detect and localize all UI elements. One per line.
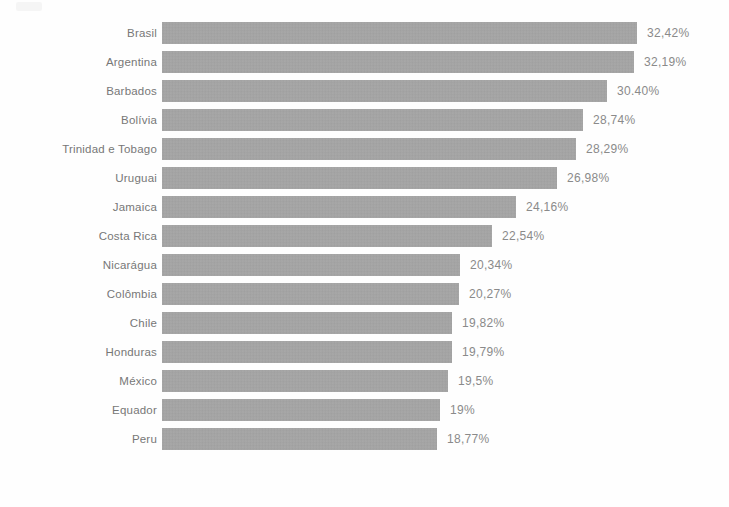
- bar-row: Colômbia20,27%: [0, 283, 729, 312]
- bar-track: 22,54%: [162, 225, 729, 247]
- category-label: Argentina: [106, 51, 157, 73]
- bar-row: Peru18,77%: [0, 428, 729, 457]
- bar: [162, 196, 516, 218]
- bar-value-label: 32,19%: [644, 51, 687, 73]
- bar-chart: Brasil32,42%Argentina32,19%Barbados30.40…: [0, 0, 729, 507]
- bar: [162, 138, 576, 160]
- bar-track: 28,74%: [162, 109, 729, 131]
- bar-row: Barbados30.40%: [0, 80, 729, 109]
- bar-row: México19,5%: [0, 370, 729, 399]
- bar-track: 26,98%: [162, 167, 729, 189]
- bar-row: Argentina32,19%: [0, 51, 729, 80]
- bar: [162, 225, 492, 247]
- bar-value-label: 19,79%: [462, 341, 505, 363]
- bar: [162, 109, 583, 131]
- category-label: Trinidad e Tobago: [62, 138, 157, 160]
- category-label: Honduras: [106, 341, 157, 363]
- bar-value-label: 30.40%: [617, 80, 660, 102]
- category-label: Colômbia: [107, 283, 157, 305]
- category-label: Brasil: [127, 22, 157, 44]
- bar-track: 30.40%: [162, 80, 729, 102]
- category-label: Jamaica: [113, 196, 157, 218]
- bar-row: Trinidad e Tobago28,29%: [0, 138, 729, 167]
- bar-row: Brasil32,42%: [0, 22, 729, 51]
- bar: [162, 341, 452, 363]
- bar: [162, 22, 637, 44]
- category-label: Barbados: [106, 80, 157, 102]
- bar: [162, 80, 607, 102]
- bar-value-label: 20,34%: [470, 254, 513, 276]
- bar: [162, 370, 448, 392]
- bar: [162, 399, 440, 421]
- category-label: Equador: [112, 399, 157, 421]
- category-label: México: [119, 370, 157, 392]
- bar-row: Costa Rica22,54%: [0, 225, 729, 254]
- bar-row: Nicarágua20,34%: [0, 254, 729, 283]
- scan-artifact: [16, 2, 42, 11]
- bar-row: Honduras19,79%: [0, 341, 729, 370]
- bar-value-label: 18,77%: [447, 428, 490, 450]
- bar-track: 20,34%: [162, 254, 729, 276]
- bar-value-label: 19,5%: [458, 370, 494, 392]
- bar: [162, 254, 460, 276]
- bar-row: Jamaica24,16%: [0, 196, 729, 225]
- bar-track: 19,5%: [162, 370, 729, 392]
- bar-row: Bolívia28,74%: [0, 109, 729, 138]
- chart-plot-area: Brasil32,42%Argentina32,19%Barbados30.40…: [0, 22, 729, 457]
- bar-track: 20,27%: [162, 283, 729, 305]
- bar: [162, 428, 437, 450]
- bar-track: 19,79%: [162, 341, 729, 363]
- bar-track: 19%: [162, 399, 729, 421]
- bar-track: 19,82%: [162, 312, 729, 334]
- bar-row: Equador19%: [0, 399, 729, 428]
- bar-value-label: 24,16%: [526, 196, 569, 218]
- bar-track: 24,16%: [162, 196, 729, 218]
- bar-track: 18,77%: [162, 428, 729, 450]
- bar: [162, 283, 459, 305]
- category-label: Peru: [132, 428, 157, 450]
- bar-value-label: 19%: [450, 399, 475, 421]
- bar-value-label: 20,27%: [469, 283, 512, 305]
- bar-value-label: 26,98%: [567, 167, 610, 189]
- bar-value-label: 28,74%: [593, 109, 636, 131]
- bar-row: Uruguai26,98%: [0, 167, 729, 196]
- bar-value-label: 32,42%: [647, 22, 690, 44]
- bar: [162, 312, 452, 334]
- bar: [162, 167, 557, 189]
- category-label: Nicarágua: [103, 254, 157, 276]
- bar-value-label: 22,54%: [502, 225, 545, 247]
- bar-row: Chile19,82%: [0, 312, 729, 341]
- bar-track: 32,19%: [162, 51, 729, 73]
- category-label: Bolívia: [121, 109, 157, 131]
- bar: [162, 51, 634, 73]
- category-label: Chile: [130, 312, 157, 334]
- category-label: Costa Rica: [99, 225, 157, 247]
- category-label: Uruguai: [115, 167, 157, 189]
- bar-track: 28,29%: [162, 138, 729, 160]
- bar-value-label: 19,82%: [462, 312, 505, 334]
- bar-track: 32,42%: [162, 22, 729, 44]
- bar-value-label: 28,29%: [586, 138, 629, 160]
